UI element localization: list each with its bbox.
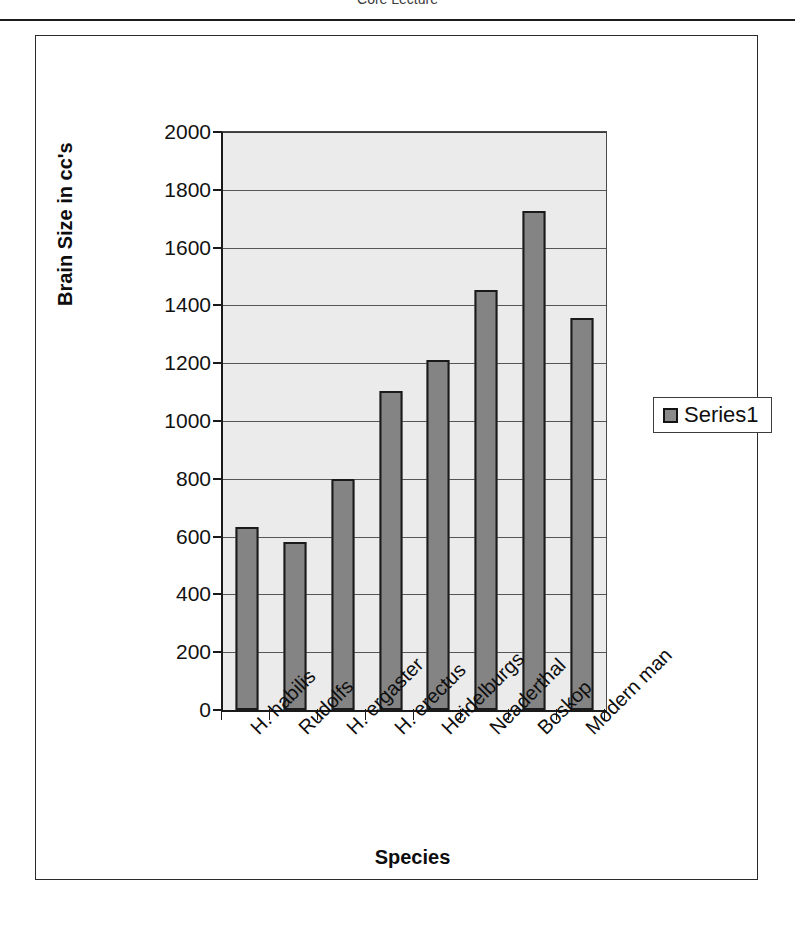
bar-slot — [367, 132, 415, 710]
bars-layer — [223, 132, 606, 710]
bar[interactable] — [571, 318, 594, 710]
x-axis-tick — [508, 709, 509, 720]
y-axis-tick-label: 200 — [145, 641, 211, 662]
header-title: Core Lecture — [0, 0, 795, 7]
bar-slot — [415, 132, 463, 710]
y-axis-tick-label: 1400 — [145, 294, 211, 315]
y-axis-tick-label: 400 — [145, 583, 211, 604]
bar[interactable] — [379, 391, 402, 710]
page-header: Core Lecture — [0, 0, 795, 24]
square-swatch-icon — [663, 408, 678, 423]
y-axis-tick-label: 1200 — [145, 352, 211, 373]
y-axis-tick — [213, 304, 221, 306]
y-axis-tick — [213, 189, 221, 191]
x-axis-tick — [604, 709, 605, 720]
x-axis-tick — [556, 709, 557, 720]
x-axis-tick — [413, 709, 414, 720]
x-axis-tick — [221, 709, 222, 720]
y-axis-tick — [213, 362, 221, 364]
y-axis-tick — [213, 536, 221, 538]
y-axis-tick — [213, 651, 221, 653]
y-axis-tick-label: 1800 — [145, 179, 211, 200]
bar[interactable] — [427, 360, 450, 710]
y-axis-tick-label: 2000 — [145, 121, 211, 142]
y-axis-tick-label: 1000 — [145, 410, 211, 431]
y-axis-tick-label: 1600 — [145, 237, 211, 258]
y-axis-title: Brain Size in cc's — [54, 266, 77, 306]
chart-legend: Series1 — [653, 397, 772, 433]
chart-frame: Brain Size in cc's 020040060080010001200… — [35, 35, 758, 880]
y-axis-tick — [213, 247, 221, 249]
bar-slot — [271, 132, 319, 710]
x-axis-tick — [269, 709, 270, 720]
y-axis-tick — [213, 420, 221, 422]
bar-slot — [223, 132, 271, 710]
bar-slot — [319, 132, 367, 710]
y-axis-tick-label: 600 — [145, 526, 211, 547]
bar[interactable] — [283, 542, 306, 710]
bar[interactable] — [475, 290, 498, 710]
y-axis-tick-label: 0 — [145, 699, 211, 720]
legend-label: Series1 — [684, 404, 759, 426]
y-axis-labels: 0200400600800100012001400160018002000 — [139, 131, 211, 709]
bar[interactable] — [331, 479, 354, 710]
y-axis-tick — [213, 593, 221, 595]
y-axis-tick — [213, 478, 221, 480]
bar[interactable] — [523, 211, 546, 710]
y-axis-tick — [213, 131, 221, 133]
y-axis-tick — [213, 709, 221, 711]
bar-slot — [510, 132, 558, 710]
bar-slot — [462, 132, 510, 710]
x-axis-tick — [460, 709, 461, 720]
x-axis-title: Species — [221, 846, 604, 869]
x-axis-tick — [365, 709, 366, 720]
bar[interactable] — [235, 527, 258, 711]
plot-area — [221, 131, 607, 712]
x-axis-tick — [317, 709, 318, 720]
bar-slot — [558, 132, 606, 710]
header-divider — [0, 19, 795, 21]
y-axis-tick-label: 800 — [145, 468, 211, 489]
